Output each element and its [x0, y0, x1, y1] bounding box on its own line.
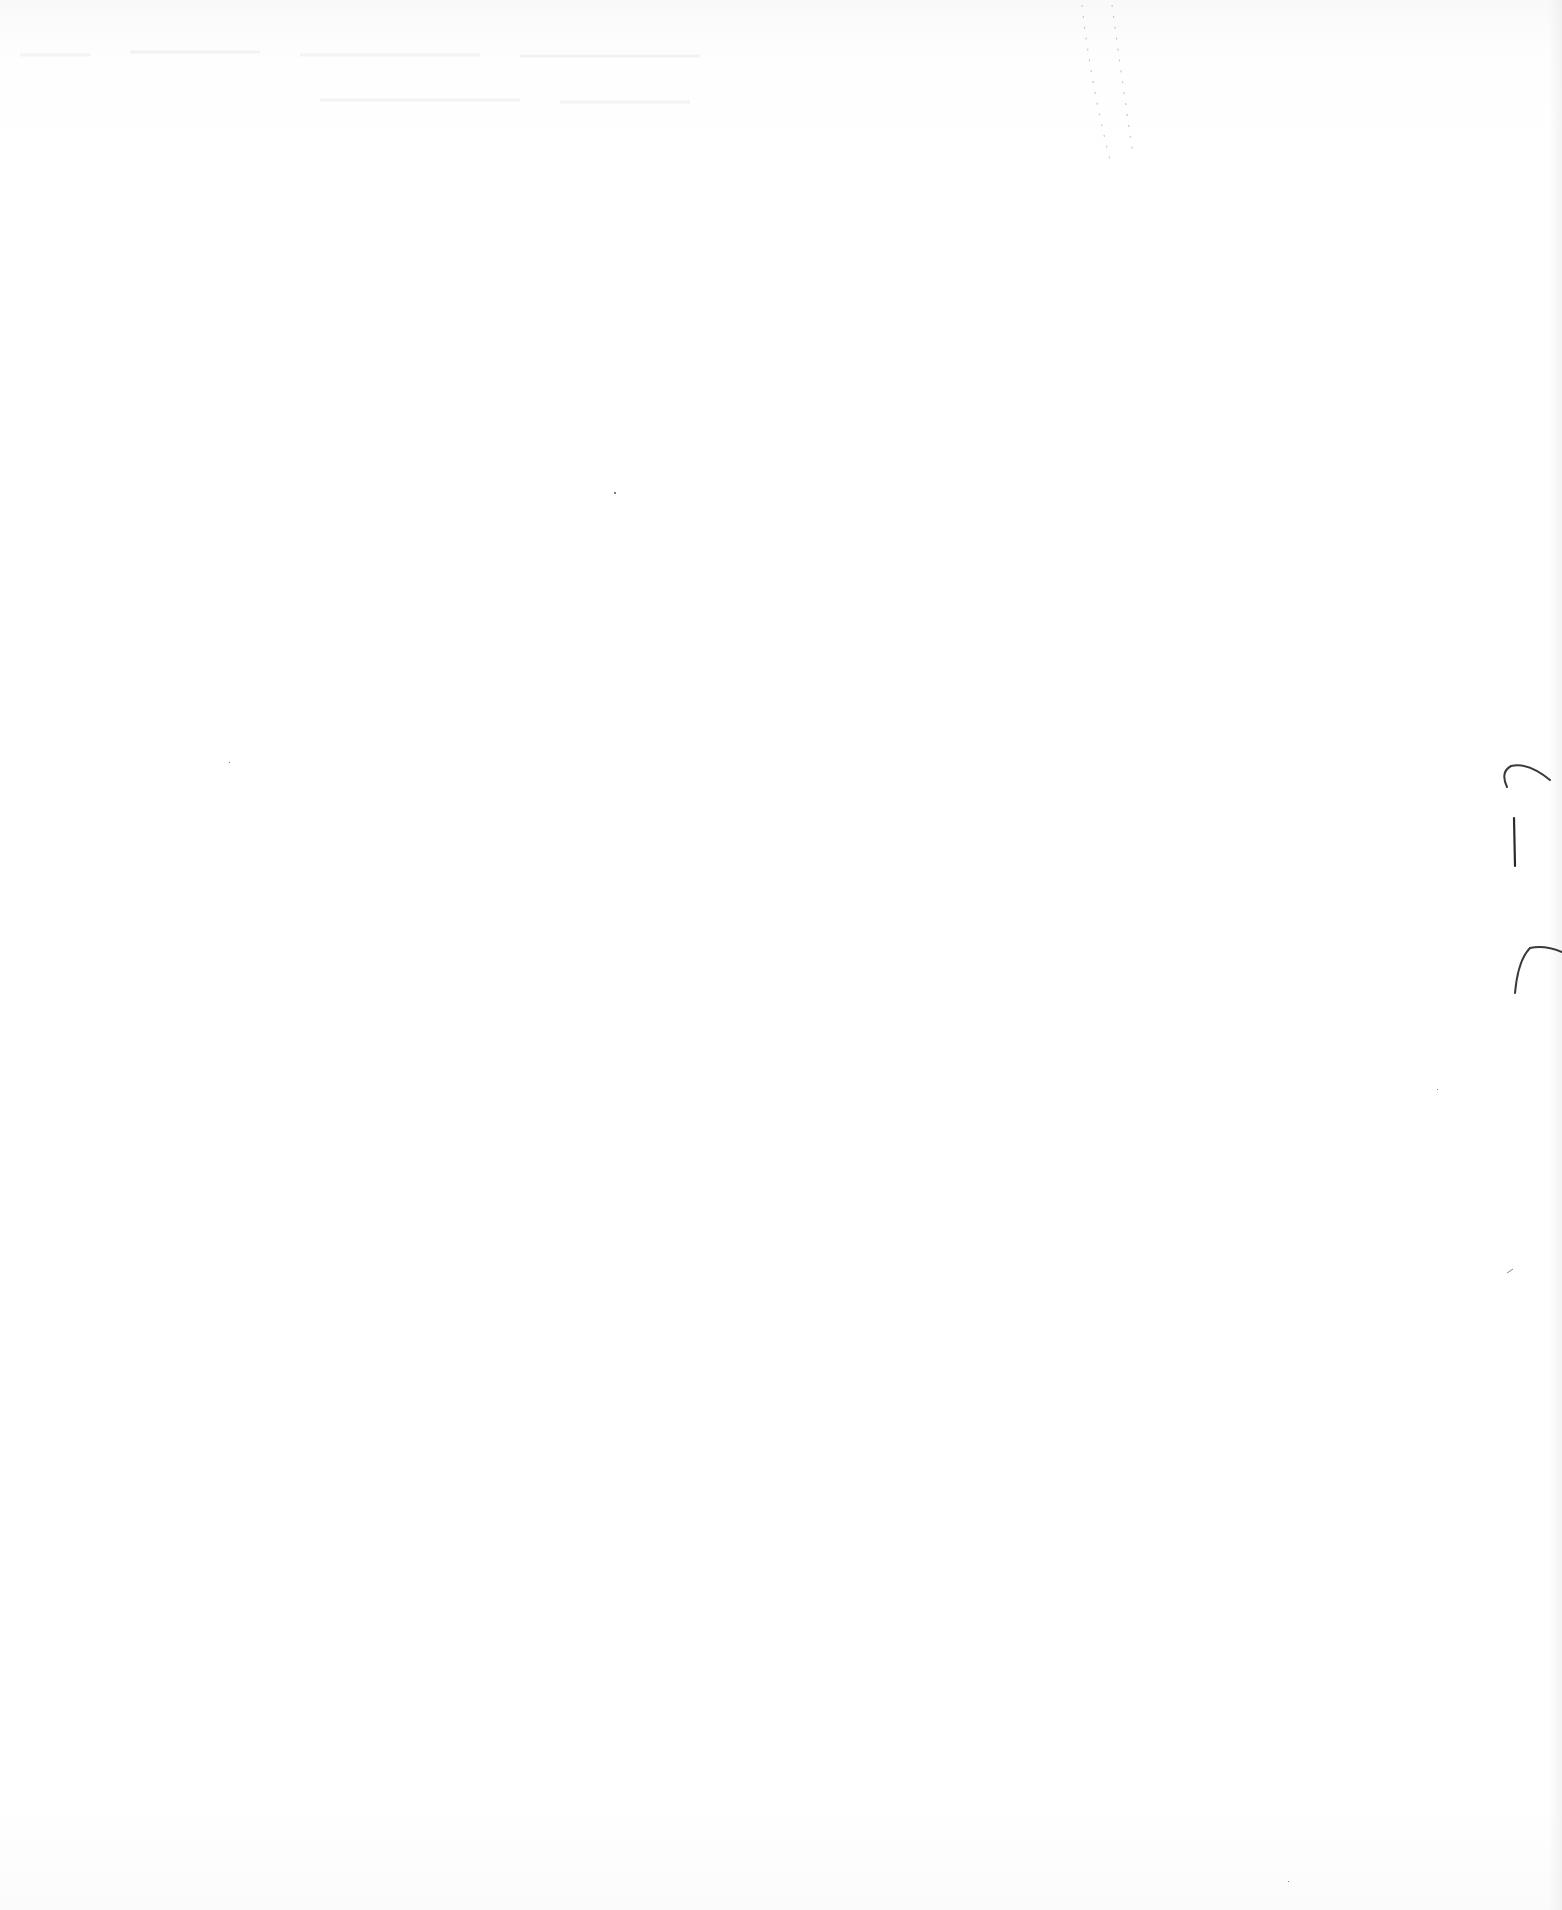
pencil-marks [0, 0, 1562, 1910]
bleed-through-text-faint [0, 0, 1562, 130]
speck [1288, 1881, 1289, 1882]
scanned-page [0, 0, 1562, 1910]
speck [1437, 1089, 1438, 1090]
speck [614, 492, 616, 494]
page-edge-shadow [1548, 0, 1562, 1910]
speck [229, 762, 230, 763]
